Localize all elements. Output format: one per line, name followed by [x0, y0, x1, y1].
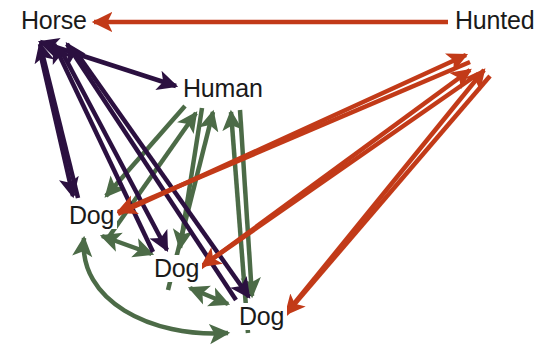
node-human[interactable]: Human	[180, 75, 266, 102]
diagram-canvas: Horse Hunted Human Dog Dog Dog	[0, 0, 556, 351]
node-hunted[interactable]: Hunted	[452, 7, 537, 34]
edge-dog2-dog3	[190, 288, 228, 304]
edge-layer	[0, 0, 556, 351]
edge-horse-human	[40, 42, 176, 86]
node-horse[interactable]: Horse	[18, 7, 90, 34]
node-dog-3[interactable]: Dog	[236, 303, 287, 330]
node-dog-1[interactable]: Dog	[66, 202, 117, 229]
node-dog-2[interactable]: Dog	[151, 255, 202, 282]
edge-hunted-to-dog3	[286, 76, 490, 314]
